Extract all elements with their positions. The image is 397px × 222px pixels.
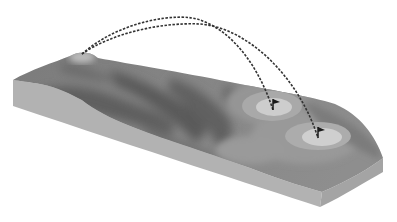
- tee-box: [69, 51, 95, 63]
- golf-terrain-illustration: [0, 0, 397, 222]
